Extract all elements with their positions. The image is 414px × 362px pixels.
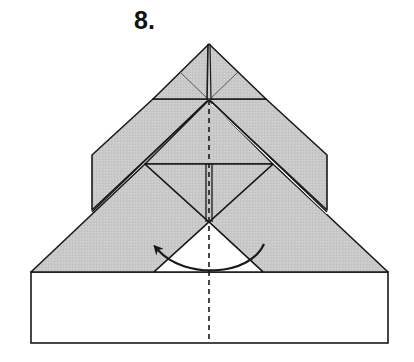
top-point — [153, 44, 266, 100]
origami-diagram — [0, 0, 414, 362]
